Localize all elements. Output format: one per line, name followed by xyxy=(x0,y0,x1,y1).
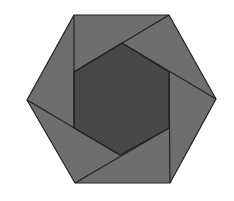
hexagon-pinwheel-diagram xyxy=(0,0,234,201)
